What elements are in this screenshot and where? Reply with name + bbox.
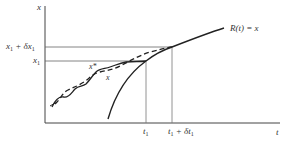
x-axis-label: t	[276, 128, 279, 137]
tick-sub: 1	[37, 60, 40, 66]
tick-rest: + δt	[174, 126, 191, 136]
curve-R	[108, 28, 224, 119]
tick-sub2: 1	[32, 46, 35, 52]
tick-rest: + δx	[13, 41, 32, 51]
y-tick-x1-plus-dx1: x1 + δx1	[6, 42, 35, 52]
y-tick-x1: x1	[33, 56, 40, 66]
tick-sub: 1	[146, 131, 149, 137]
x-tick-t1: t1	[143, 127, 149, 137]
curve-x-label: x	[106, 74, 110, 82]
curve-x-star-label: x*	[89, 63, 97, 71]
curve-R-label: R(t) = x	[230, 24, 259, 33]
x-tick-t1-plus-dt1: t1 + δt1	[168, 127, 194, 137]
tick-sub2: 1	[191, 131, 194, 137]
curve-x-star	[52, 61, 146, 107]
y-axis-label: x	[37, 3, 41, 12]
